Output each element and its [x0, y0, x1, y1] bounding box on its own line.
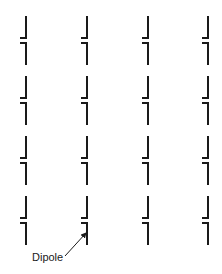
dipole-upper-arm	[20, 16, 26, 38]
dipole-lower-arm	[20, 223, 26, 245]
dipole-lower-arm	[81, 103, 87, 125]
dipole-lower-arm	[202, 223, 208, 245]
dipole	[81, 76, 87, 125]
dipole-upper-arm	[20, 196, 26, 218]
dipole-grid	[20, 16, 208, 245]
dipole-upper-arm	[142, 76, 148, 98]
dipole	[142, 196, 148, 245]
dipole-lower-arm	[142, 163, 148, 185]
dipole	[142, 76, 148, 125]
dipole-upper-arm	[142, 16, 148, 38]
dipole	[202, 136, 208, 185]
dipole-lower-arm	[20, 103, 26, 125]
dipole-upper-arm	[142, 136, 148, 158]
dipole	[142, 136, 148, 185]
dipole-label: Dipole	[32, 251, 63, 263]
dipole	[202, 196, 208, 245]
pointer-arrow	[65, 233, 86, 256]
dipole-upper-arm	[202, 196, 208, 218]
dipole-array-diagram: Dipole	[0, 0, 222, 274]
dipole-upper-arm	[202, 136, 208, 158]
dipole-lower-arm	[81, 43, 87, 65]
dipole	[20, 16, 26, 65]
dipole	[142, 16, 148, 65]
dipole-lower-arm	[142, 103, 148, 125]
dipole-lower-arm	[142, 223, 148, 245]
dipole-lower-arm	[202, 103, 208, 125]
dipole-lower-arm	[202, 43, 208, 65]
dipole-upper-arm	[20, 136, 26, 158]
dipole-lower-arm	[20, 43, 26, 65]
dipole	[202, 16, 208, 65]
dipole	[81, 16, 87, 65]
dipole	[81, 136, 87, 185]
dipole-upper-arm	[81, 196, 87, 218]
dipole	[20, 136, 26, 185]
dipole-upper-arm	[81, 16, 87, 38]
dipole-lower-arm	[81, 163, 87, 185]
dipole-lower-arm	[20, 163, 26, 185]
dipole-upper-arm	[202, 16, 208, 38]
dipole-upper-arm	[81, 136, 87, 158]
dipole	[20, 196, 26, 245]
dipole-lower-arm	[142, 43, 148, 65]
dipole	[20, 76, 26, 125]
dipole-lower-arm	[81, 223, 87, 245]
dipole-upper-arm	[20, 76, 26, 98]
dipole-upper-arm	[142, 196, 148, 218]
dipole-lower-arm	[202, 163, 208, 185]
dipole	[202, 76, 208, 125]
dipole-upper-arm	[81, 76, 87, 98]
dipole-upper-arm	[202, 76, 208, 98]
